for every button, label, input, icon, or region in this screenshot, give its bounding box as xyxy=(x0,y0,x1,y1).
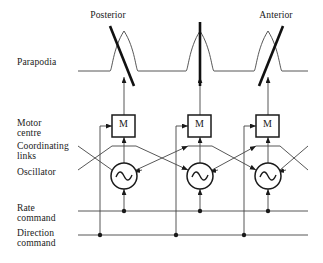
motor-box-label-unit-3: M xyxy=(256,119,279,130)
parapodium-bars xyxy=(110,22,283,86)
figure-canvas: Parapodia Motor centre Coordinating link… xyxy=(0,0,323,263)
junction-dot-rate-2 xyxy=(198,209,202,213)
motor-box-label-unit-1: M xyxy=(112,119,135,130)
motor-box-label-unit-2: M xyxy=(188,119,211,130)
junction-dot-direction-3 xyxy=(242,233,246,237)
oscillator-circles xyxy=(111,163,281,189)
junction-dot-rate-1 xyxy=(122,209,126,213)
parapodium-bar-unit-3 xyxy=(259,26,283,86)
diagram-linework xyxy=(0,0,323,263)
junction-dot-direction-2 xyxy=(174,233,178,237)
junction-dot-rate-3 xyxy=(266,209,270,213)
junction-dot-direction-1 xyxy=(98,233,102,237)
